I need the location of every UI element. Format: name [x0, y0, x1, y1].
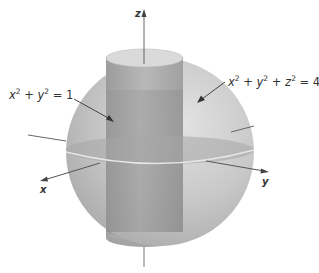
x-axis-arrowhead — [40, 177, 48, 182]
z-axis-label: z — [135, 9, 141, 19]
x-axis-back — [28, 135, 66, 141]
sphere-equation-label: x2 + y2 + z2 = 4 — [228, 75, 319, 89]
xy-plane-disc — [66, 136, 254, 164]
sphere-cylinder-figure: z x y x2 + y2 = 1 x2 + y2 + z2 = 4 — [0, 0, 319, 273]
z-axis-arrowhead — [142, 9, 147, 17]
diagram-canvas — [0, 0, 319, 273]
cylinder-equation-label: x2 + y2 = 1 — [9, 88, 73, 102]
y-axis-label: y — [262, 177, 269, 187]
x-axis-label: x — [40, 185, 46, 195]
y-axis-arrowhead — [261, 169, 270, 174]
